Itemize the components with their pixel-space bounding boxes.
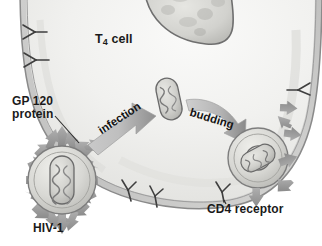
label-cd4-receptor: CD4 receptor	[207, 203, 284, 216]
release-arrow	[278, 178, 294, 192]
label-t4-cell-letter: T	[95, 32, 103, 46]
label-gp120-protein: GP 120protein	[12, 95, 53, 122]
label-t4-cell-suffix: cell	[108, 32, 133, 46]
label-gp120-line2: protein	[12, 108, 53, 121]
virion-capsid	[50, 156, 74, 204]
label-t4-cell-subscript: 4	[103, 37, 108, 47]
label-gp120-line1: GP 120	[12, 94, 53, 108]
label-hiv1: HIV-1	[33, 222, 64, 235]
hiv-infection-diagram: T4 cell GP 120protein HIV-1 CD4 receptor…	[0, 0, 322, 246]
label-t4-cell: T4 cell	[95, 32, 133, 46]
